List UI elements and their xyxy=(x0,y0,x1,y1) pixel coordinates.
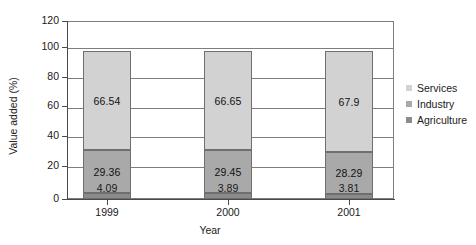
x-tick-label-1999: 1999 xyxy=(77,206,137,218)
bar-value-label-agriculture-2001: 3.81 xyxy=(319,182,379,194)
y-tick-120 xyxy=(62,21,68,22)
y-tick-label-60: 60 xyxy=(29,100,59,111)
y-tick-label-40: 40 xyxy=(29,130,59,141)
stacked-bar-chart: 120 100 80 60 40 20 0 Value added (%) 19… xyxy=(0,0,476,245)
legend-item-agriculture[interactable]: Agriculture xyxy=(406,112,476,127)
bar-stack-2001[interactable]: 67.9 28.29 xyxy=(325,51,373,199)
legend: Services Industry Agriculture xyxy=(406,80,476,128)
y-tick-label-100: 100 xyxy=(29,41,59,52)
bar-value-label: 66.65 xyxy=(215,95,242,107)
bar-value-label-agriculture-2000: 3.89 xyxy=(198,182,258,194)
y-tick-60 xyxy=(62,106,68,107)
gridline-100 xyxy=(68,48,393,49)
y-tick-20 xyxy=(62,166,68,167)
y-tick-label-80: 80 xyxy=(29,71,59,82)
bar-value-label: 29.36 xyxy=(94,166,121,178)
legend-swatch-icon xyxy=(406,101,412,107)
y-axis-title: Value added (%) xyxy=(7,56,19,176)
x-tick-1999 xyxy=(107,200,108,205)
x-tick-2000 xyxy=(228,200,229,205)
bar-value-label: 66.54 xyxy=(94,95,121,107)
y-tick-100 xyxy=(62,47,68,48)
bar-segment-agriculture-2001[interactable] xyxy=(325,194,373,199)
x-tick-label-2001: 2001 xyxy=(319,206,379,218)
x-tick-2001 xyxy=(349,200,350,205)
y-tick-labels: 120 100 80 60 40 20 0 xyxy=(25,0,59,245)
legend-label: Services xyxy=(417,82,457,94)
bar-value-label-agriculture-1999: 4.09 xyxy=(77,182,137,194)
y-tick-40 xyxy=(62,136,68,137)
y-tick-80 xyxy=(62,77,68,78)
y-tick-label-0: 0 xyxy=(29,193,59,204)
x-axis-line xyxy=(67,199,395,200)
bar-value-label: 28.29 xyxy=(336,167,363,179)
bar-value-label: 67.9 xyxy=(339,96,360,108)
bar-stack-1999[interactable]: 66.54 29.36 xyxy=(83,51,131,199)
bar-value-label: 29.45 xyxy=(215,166,242,178)
x-axis-title: Year xyxy=(0,224,420,236)
bar-stack-2000[interactable]: 66.65 29.45 xyxy=(204,51,252,199)
bar-segment-services-2001[interactable]: 67.9 xyxy=(325,51,373,152)
legend-label: Industry xyxy=(417,98,454,110)
legend-label: Agriculture xyxy=(417,114,467,126)
y-tick-label-120: 120 xyxy=(29,15,59,26)
legend-swatch-icon xyxy=(406,85,412,91)
legend-swatch-icon xyxy=(406,117,412,123)
bar-segment-services-1999[interactable]: 66.54 xyxy=(83,51,131,150)
legend-item-industry[interactable]: Industry xyxy=(406,96,476,111)
legend-item-services[interactable]: Services xyxy=(406,80,476,95)
x-tick-label-2000: 2000 xyxy=(198,206,258,218)
y-tick-label-20: 20 xyxy=(29,160,59,171)
bar-segment-services-2000[interactable]: 66.65 xyxy=(204,51,252,150)
